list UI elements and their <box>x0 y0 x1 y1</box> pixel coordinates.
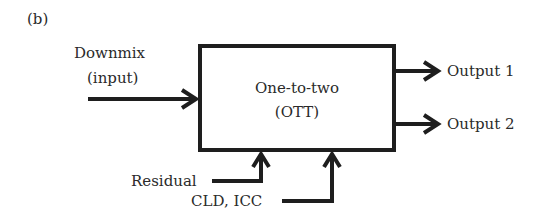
residual-label: Residual <box>131 172 197 190</box>
block-title-line1: One-to-two <box>200 79 394 97</box>
cld-icc-arrow <box>282 154 340 201</box>
output-2-label: Output 2 <box>447 115 515 133</box>
cld-icc-label: CLD, ICC <box>191 192 262 210</box>
input-arrow <box>88 90 196 108</box>
block-title-line2: (OTT) <box>200 103 394 121</box>
panel-label: (b) <box>27 10 48 28</box>
output-1-arrow <box>394 62 438 80</box>
output-2-arrow <box>394 115 438 133</box>
ott-block <box>200 46 394 150</box>
input-label-line1: Downmix <box>74 44 145 62</box>
residual-arrow <box>212 154 269 181</box>
output-1-label: Output 1 <box>447 62 515 80</box>
input-label-line2: (input) <box>87 69 138 87</box>
